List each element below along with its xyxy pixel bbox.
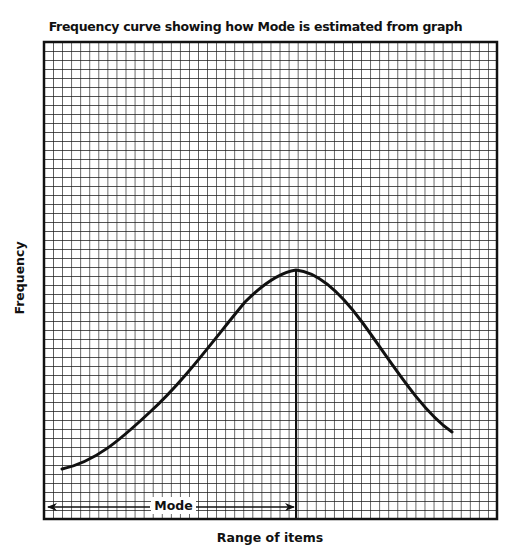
mode-label: Mode	[151, 498, 196, 513]
chart-plot	[0, 0, 511, 555]
